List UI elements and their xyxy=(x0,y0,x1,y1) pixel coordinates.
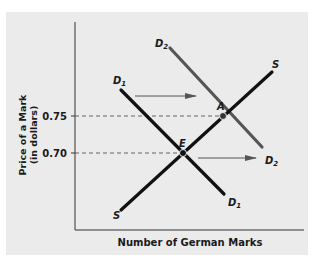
s-top-label: S xyxy=(272,59,279,70)
svg-text:(in dollars): (in dollars) xyxy=(28,106,39,165)
point-e-label: E xyxy=(179,138,186,149)
s-bottom-label: S xyxy=(113,210,120,221)
d2-bottom-label: D2 xyxy=(265,155,278,168)
d1-bottom-label: D1 xyxy=(228,197,241,210)
forex-supply-demand-chart: A E D1 D1 D2 D2 S S 0.75 0.70 Price of a… xyxy=(0,0,324,267)
svg-text:Price of a Mark: Price of a Mark xyxy=(17,94,28,176)
d1-top-label: D1 xyxy=(113,75,126,88)
d2-top-label: D2 xyxy=(155,38,168,51)
demand-curve-d2 xyxy=(170,48,262,147)
point-a-label: A xyxy=(216,101,225,112)
y-axis-title: Price of a Mark (in dollars) xyxy=(17,94,39,176)
tick-label-075: 0.75 xyxy=(42,111,67,122)
supply-curve-s xyxy=(121,72,272,210)
demand-curve-d1 xyxy=(121,90,224,194)
tick-label-070: 0.70 xyxy=(42,148,67,159)
x-axis-title: Number of German Marks xyxy=(118,237,263,248)
point-a-marker xyxy=(220,113,227,120)
point-e-marker xyxy=(180,150,187,157)
